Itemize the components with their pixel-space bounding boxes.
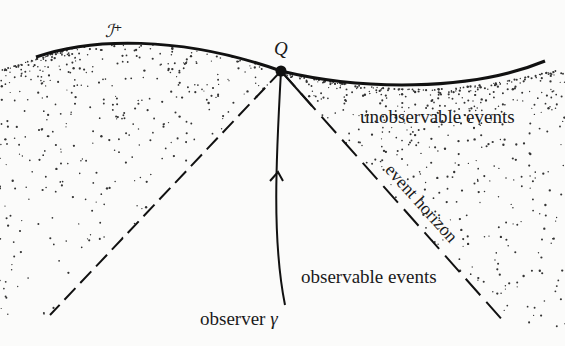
observable-events-label: observable events (301, 266, 437, 288)
scri-plus-label: ℐ⁺ (105, 20, 123, 42)
observer-worldline (276, 71, 285, 305)
point-q (276, 66, 287, 77)
observer-symbol: γ (270, 308, 278, 329)
unobservable-events-label: unobservable events (360, 106, 515, 128)
null-infinity-curve (36, 43, 545, 85)
observer-label: observer γ (200, 308, 278, 330)
past-light-cone-left (50, 71, 281, 315)
point-q-label: Q (274, 38, 288, 60)
observer-text: observer (200, 308, 265, 329)
